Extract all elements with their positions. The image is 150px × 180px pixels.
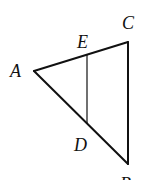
label-e: E xyxy=(76,32,88,52)
vertex-labels: A E C D B xyxy=(9,13,135,180)
triangle-diagram: A E C D B xyxy=(0,0,150,180)
label-c: C xyxy=(122,13,135,33)
label-b: B xyxy=(120,174,131,180)
label-a: A xyxy=(9,61,22,81)
label-d: D xyxy=(73,135,87,155)
